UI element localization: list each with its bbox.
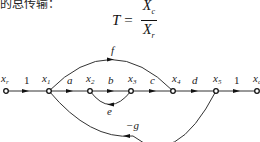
node-x3 [129,89,134,94]
gain-label-1a: 1 [24,74,30,86]
gain-label-e: e [107,105,112,117]
arrow-icon [66,89,73,93]
node-x5 [214,89,219,94]
node-label-x2: x2 [85,72,95,86]
gain-label-1b: 1 [234,74,240,86]
node-label-xc: xc [252,72,260,86]
gain-label-f: f [111,44,116,56]
gain-label-d: d [192,74,198,86]
node-x2 [88,89,93,94]
node-x1 [47,89,52,94]
node-label-xr: xr [0,72,9,86]
arrow-icon [191,89,198,93]
gain-label-a: a [67,74,73,86]
node-xc [255,89,260,94]
gain-label-b: b [108,74,114,86]
branch-e-arc [90,91,131,105]
node-label-x1: x1 [41,72,50,86]
arrow-icon [149,89,156,93]
node-x4 [171,89,176,94]
arrow-icon [22,89,29,93]
node-label-x5: x5 [212,72,222,86]
node-label-x4: x4 [171,72,181,86]
signal-flow-graph: xr x1 x2 x3 x4 x5 xc 1 a b c d 1 f e −g [0,0,260,142]
arrow-icon [233,89,240,93]
gain-label-neg-g: −g [126,119,139,131]
arrow-icon [107,58,114,62]
gain-label-c: c [150,74,155,86]
node-label-x3: x3 [127,72,137,86]
node-xr [4,89,9,94]
arrow-icon [107,89,114,93]
branch-neg-g-arc [49,91,216,142]
arrow-icon [123,134,130,138]
